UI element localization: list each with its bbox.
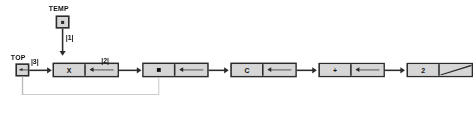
- null-pointer-slash-icon: [440, 64, 472, 76]
- node-star-link-arrow-icon: [180, 69, 203, 70]
- node-x-link-cell: [84, 64, 117, 76]
- top-to-x-connector-line: [29, 70, 48, 71]
- list-node-c: C: [230, 63, 296, 78]
- x-to-star-arrowhead-icon: [137, 67, 142, 73]
- top-pointer-label: TOP: [11, 54, 26, 62]
- node-c-value-cell: C: [232, 64, 262, 76]
- node-star-link-cell: [174, 64, 207, 76]
- feedback-path-right-vertical: [158, 77, 159, 94]
- node-plus-link-cell: [350, 64, 383, 76]
- top-pointer-left-arrow-icon: [19, 69, 28, 70]
- top-to-x-arrowhead-icon: [47, 67, 52, 73]
- top-to-x-count-label: |3|: [31, 58, 39, 66]
- feedback-path-bottom-horizontal: [22, 94, 160, 95]
- top-pointer-box: [15, 63, 29, 76]
- node-two-value-cell: 2: [408, 64, 438, 76]
- x-to-star-connector-line: [119, 70, 138, 71]
- node-plus-value-cell: +: [320, 64, 350, 76]
- temp-pointer-box: [56, 15, 70, 28]
- linked-list-diagram: TEMP |1| TOP |3| X |2| C: [0, 0, 473, 131]
- x-to-star-count-label: |2|: [101, 56, 109, 64]
- plus-to-two-connector-line: [385, 70, 402, 71]
- node-plus-link-arrow-icon: [356, 69, 379, 70]
- node-c-link-cell: [262, 64, 295, 76]
- list-node-x: X: [53, 63, 119, 78]
- star-to-c-arrowhead-icon: [224, 67, 229, 73]
- node-star-operator-dot-icon: [157, 68, 161, 72]
- node-x-link-arrow-icon: [90, 69, 113, 70]
- list-node-plus: +: [318, 63, 384, 78]
- star-to-c-connector-line: [209, 70, 226, 71]
- c-to-plus-connector-line: [297, 70, 314, 71]
- temp-to-x-arrowhead-icon: [60, 51, 66, 56]
- temp-to-x-connector-line: [62, 29, 63, 54]
- plus-to-two-arrowhead-icon: [400, 67, 405, 73]
- temp-pointer-dot-icon: [61, 20, 64, 23]
- node-x-value-cell: X: [54, 64, 84, 76]
- temp-pointer-label: TEMP: [49, 5, 69, 13]
- feedback-path-left-vertical: [22, 77, 23, 96]
- list-node-star: [142, 63, 208, 78]
- node-two-null-cell: [438, 64, 471, 76]
- c-to-plus-arrowhead-icon: [312, 67, 317, 73]
- node-c-link-arrow-icon: [268, 69, 291, 70]
- node-star-value-cell: [144, 64, 174, 76]
- list-node-two: 2: [407, 63, 473, 78]
- temp-to-x-count-label: |1|: [66, 34, 74, 42]
